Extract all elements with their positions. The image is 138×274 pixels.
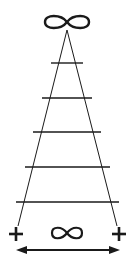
bottom-infinity-icon <box>52 228 82 239</box>
top-infinity-icon <box>45 16 89 28</box>
right-plus-icon <box>112 227 126 241</box>
left-side-line <box>18 30 67 226</box>
diagram-canvas <box>0 0 138 274</box>
left-plus-icon <box>9 227 23 241</box>
double-arrow-icon <box>16 246 120 254</box>
right-side-line <box>67 30 117 226</box>
